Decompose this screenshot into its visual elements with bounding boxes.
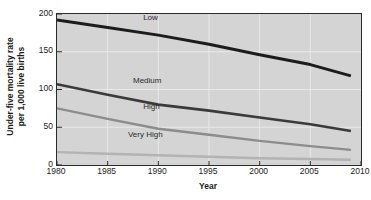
y-axis-tick-labels: 050100150200 — [26, 0, 53, 172]
x-tick-label: 2005 — [289, 166, 329, 176]
series-line-low — [57, 20, 351, 76]
x-tick-label: 2010 — [340, 166, 371, 176]
chart-figure: Under-five mortality rate per 1,000 live… — [0, 0, 371, 200]
y-tick-label: 100 — [29, 84, 53, 93]
x-tick-label: 1985 — [87, 166, 127, 176]
y-tick-label: 150 — [29, 46, 53, 55]
x-tick-label: 2000 — [239, 166, 279, 176]
y-axis-title-line2: per 1,000 live births — [15, 37, 26, 135]
x-axis-title: Year — [56, 181, 360, 191]
series-label-medium: Medium — [133, 76, 161, 85]
series-line-medium — [57, 84, 351, 131]
plot-area: LowMediumHighVery High — [56, 13, 362, 166]
series-line-high — [57, 108, 351, 150]
series-line-very-high — [57, 152, 351, 160]
plot-svg — [57, 14, 361, 165]
series-label-high: High — [143, 102, 159, 111]
x-tick-label: 1995 — [188, 166, 228, 176]
y-tick-label: 50 — [29, 122, 53, 131]
x-axis-tick-labels: 1980198519901995200020052010 — [56, 166, 360, 180]
y-tick-label: 200 — [29, 9, 53, 18]
series-label-low: Low — [143, 13, 158, 22]
y-axis-title-line1: Under-five mortality rate — [5, 37, 15, 135]
series-label-very-high: Very High — [128, 130, 163, 139]
x-tick-label: 1980 — [36, 166, 76, 176]
x-tick-label: 1990 — [137, 166, 177, 176]
